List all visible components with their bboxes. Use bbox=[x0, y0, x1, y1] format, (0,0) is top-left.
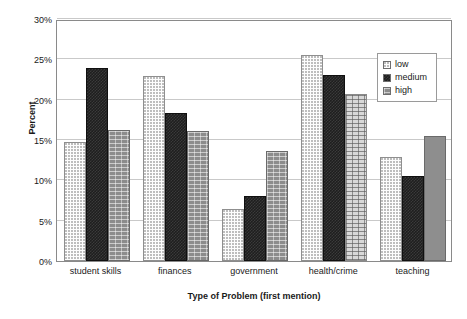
legend-item-medium[interactable]: medium bbox=[383, 71, 431, 84]
bar-high bbox=[266, 151, 288, 261]
bar-high bbox=[345, 94, 367, 261]
y-axis-tick-label: 25% bbox=[10, 55, 52, 65]
bar-chart: Percent 0%5%10%15%20%25%30% student skil… bbox=[0, 0, 467, 319]
legend-swatch-medium-icon bbox=[383, 74, 391, 82]
y-axis-tick-label: 5% bbox=[10, 217, 52, 227]
x-axis-tick-label: student skills bbox=[70, 266, 122, 276]
bar-high bbox=[187, 131, 209, 261]
legend-swatch-low-icon bbox=[383, 61, 391, 69]
y-axis-tick-label: 10% bbox=[10, 176, 52, 186]
bar-low bbox=[143, 76, 165, 261]
x-axis-tick-label: teaching bbox=[395, 266, 429, 276]
legend-swatch-high-icon bbox=[383, 87, 391, 95]
y-axis-tick-labels: 0%5%10%15%20%25%30% bbox=[10, 0, 52, 319]
legend-label-high: high bbox=[395, 86, 412, 95]
bar-low bbox=[222, 209, 244, 261]
bar-high bbox=[108, 130, 130, 261]
gridline bbox=[57, 18, 451, 19]
legend: low medium high bbox=[377, 53, 437, 102]
bar-low bbox=[64, 142, 86, 261]
bar-medium bbox=[244, 196, 266, 261]
bar-medium bbox=[86, 68, 108, 261]
bar-medium bbox=[323, 75, 345, 261]
legend-label-medium: medium bbox=[395, 73, 427, 82]
bar-group bbox=[64, 21, 130, 261]
x-axis-tick-labels: student skillsfinancesgovernmenthealth/c… bbox=[56, 266, 452, 284]
bar-group bbox=[301, 21, 367, 261]
x-axis-tick-label: finances bbox=[158, 266, 192, 276]
x-axis-tick-label: government bbox=[230, 266, 278, 276]
bar-high bbox=[424, 136, 446, 261]
x-axis-tick-label: health/crime bbox=[309, 266, 358, 276]
bar-low bbox=[380, 157, 402, 261]
bar-medium bbox=[165, 113, 187, 261]
y-axis-tick-label: 0% bbox=[10, 257, 52, 267]
bar-group bbox=[143, 21, 209, 261]
bar-medium bbox=[402, 176, 424, 262]
legend-item-low[interactable]: low bbox=[383, 58, 431, 71]
bar-group bbox=[222, 21, 288, 261]
y-axis-tick-label: 30% bbox=[10, 15, 52, 25]
x-axis-title: Type of Problem (first mention) bbox=[56, 291, 452, 301]
y-axis-tick-label: 20% bbox=[10, 96, 52, 106]
legend-label-low: low bbox=[395, 60, 409, 69]
bar-low bbox=[301, 55, 323, 262]
legend-item-high[interactable]: high bbox=[383, 84, 431, 97]
y-axis-tick-label: 15% bbox=[10, 136, 52, 146]
